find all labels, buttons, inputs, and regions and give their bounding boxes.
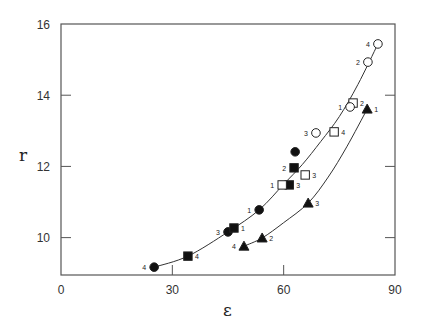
point-label: 3 — [216, 229, 220, 236]
point-label: 2 — [269, 235, 273, 242]
open-circle-marker — [374, 40, 383, 49]
x-tick-label: 30 — [166, 283, 180, 297]
y-tick-label: 12 — [37, 160, 51, 174]
tick-labels: 030609010121416 — [37, 18, 402, 298]
point-label: 3 — [315, 200, 319, 207]
open-square-marker — [330, 128, 338, 136]
filled-triangle-marker — [257, 233, 267, 242]
open-square-marker — [301, 171, 309, 179]
filled-square-marker — [290, 164, 298, 172]
y-tick-label: 14 — [37, 89, 51, 103]
point-label: 2 — [360, 100, 364, 107]
point-label: 4 — [232, 243, 236, 250]
axis-ticks — [61, 95, 395, 275]
open-circle-marker — [312, 129, 321, 138]
fit-curves — [154, 44, 378, 267]
point-label: 1 — [374, 106, 378, 113]
filled-circle-marker — [255, 206, 264, 215]
point-label: 1 — [338, 104, 342, 111]
point-label: 4 — [366, 41, 370, 48]
x-tick-label: 60 — [277, 283, 291, 297]
data-points: 4314132134231244231 — [142, 40, 382, 272]
filled-circle-marker — [291, 148, 300, 157]
x-tick-label: 90 — [388, 283, 402, 297]
point-label: 4 — [341, 129, 345, 136]
point-label: 1 — [247, 207, 251, 214]
filled-square-marker — [230, 224, 238, 232]
point-label: 3 — [296, 182, 300, 189]
y-tick-label: 10 — [37, 231, 51, 245]
open-square-marker — [278, 181, 286, 189]
point-label: 3 — [304, 130, 308, 137]
x-tick-label: 0 — [58, 283, 65, 297]
point-label: 1 — [270, 182, 274, 189]
filled-triangle-marker — [239, 241, 249, 250]
point-label: 3 — [312, 172, 316, 179]
point-label: 2 — [356, 59, 360, 66]
open-circle-marker — [364, 58, 373, 67]
point-label: 1 — [241, 225, 245, 232]
filled-square-marker — [184, 252, 192, 260]
y-axis-title: r — [19, 145, 28, 165]
open-circle-marker — [346, 103, 355, 112]
y-tick-label: 16 — [37, 18, 51, 32]
point-label: 4 — [142, 264, 146, 271]
x-axis-title: ε — [223, 300, 232, 320]
point-label: 4 — [195, 253, 199, 260]
point-label: 2 — [282, 165, 286, 172]
upper-fit-curve — [154, 44, 378, 267]
scatter-chart: 030609010121416 4314132134231244231 r ε — [0, 0, 423, 333]
filled-circle-marker — [150, 263, 159, 272]
